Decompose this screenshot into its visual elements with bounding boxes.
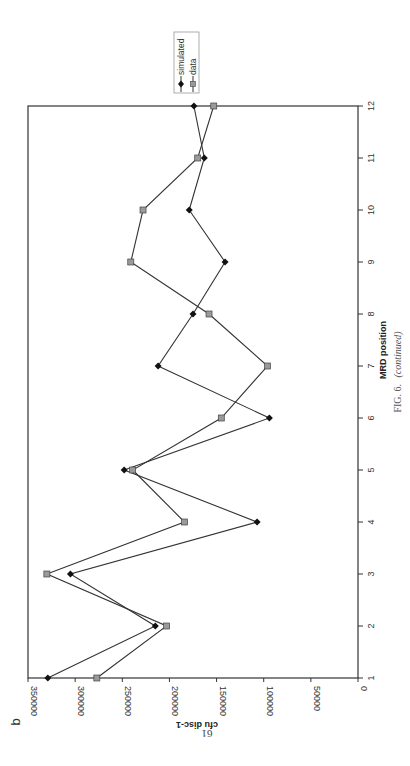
y-tick-label: 100000	[265, 686, 275, 716]
point-data	[218, 415, 224, 421]
point-data	[44, 571, 50, 577]
point-data	[164, 623, 170, 629]
point-data	[206, 311, 212, 317]
point-data	[94, 675, 100, 681]
y-tick-label: 200000	[170, 686, 180, 716]
point-simulated	[155, 363, 162, 370]
x-tick-label: 2	[366, 623, 376, 628]
y-tick-label: 150000	[218, 686, 228, 716]
legend-label-simulated: simulated	[176, 38, 186, 75]
y-tick-label: 250000	[123, 686, 133, 716]
x-tick-label: 12	[366, 101, 376, 111]
y-tick-label: 50000	[312, 686, 322, 711]
x-axis-ticks: 123456789101112	[358, 101, 376, 681]
series-line-data	[47, 106, 268, 678]
x-axis-title: MRD position	[378, 321, 388, 379]
y-tick-label: 300000	[76, 686, 86, 716]
point-simulated	[190, 103, 197, 110]
point-simulated	[254, 519, 261, 526]
point-simulated	[121, 467, 128, 474]
figure-caption: FIG. 6. (continued)	[392, 331, 404, 413]
point-data	[211, 103, 217, 109]
panel-label: b	[8, 718, 23, 725]
legend-marker-data	[191, 82, 196, 87]
point-data	[264, 363, 270, 369]
x-tick-label: 5	[366, 467, 376, 472]
legend-label-data: data	[188, 58, 198, 75]
point-simulated	[152, 623, 159, 630]
x-tick-label: 7	[366, 363, 376, 368]
series-line-simulated	[48, 106, 270, 678]
caption-suffix: (continued)	[392, 331, 404, 378]
chart: 123456789101112 050000100000150000200000…	[0, 0, 410, 766]
point-simulated	[44, 675, 51, 682]
point-data	[182, 519, 188, 525]
y-axis-ticks: 0500001000001500002000002500003000003500…	[28, 678, 369, 716]
x-tick-label: 3	[366, 571, 376, 576]
point-simulated	[201, 155, 208, 162]
point-simulated	[222, 259, 229, 266]
series-lines	[47, 106, 270, 678]
svg-text:FIG. 6. (continued): FIG. 6. (continued)	[392, 331, 404, 413]
caption-prefix: FIG. 6.	[392, 384, 403, 413]
x-tick-label: 10	[366, 205, 376, 215]
y-tick-label: 0	[359, 686, 369, 691]
point-simulated	[266, 415, 273, 422]
point-data	[130, 467, 136, 473]
x-tick-label: 4	[366, 519, 376, 524]
point-data	[140, 207, 146, 213]
x-tick-label: 8	[366, 311, 376, 316]
page-number: 61	[202, 728, 213, 740]
plot-frame	[28, 106, 358, 678]
point-data	[195, 155, 201, 161]
x-tick-label: 9	[366, 259, 376, 264]
point-data	[128, 259, 134, 265]
legend: simulated data	[174, 32, 199, 93]
x-tick-label: 1	[366, 675, 376, 680]
point-simulated	[190, 311, 197, 318]
point-simulated	[67, 571, 74, 578]
point-simulated	[186, 207, 193, 214]
x-tick-label: 6	[366, 415, 376, 420]
x-tick-label: 11	[366, 153, 376, 162]
series-markers	[44, 103, 273, 682]
y-tick-label: 350000	[29, 686, 39, 716]
